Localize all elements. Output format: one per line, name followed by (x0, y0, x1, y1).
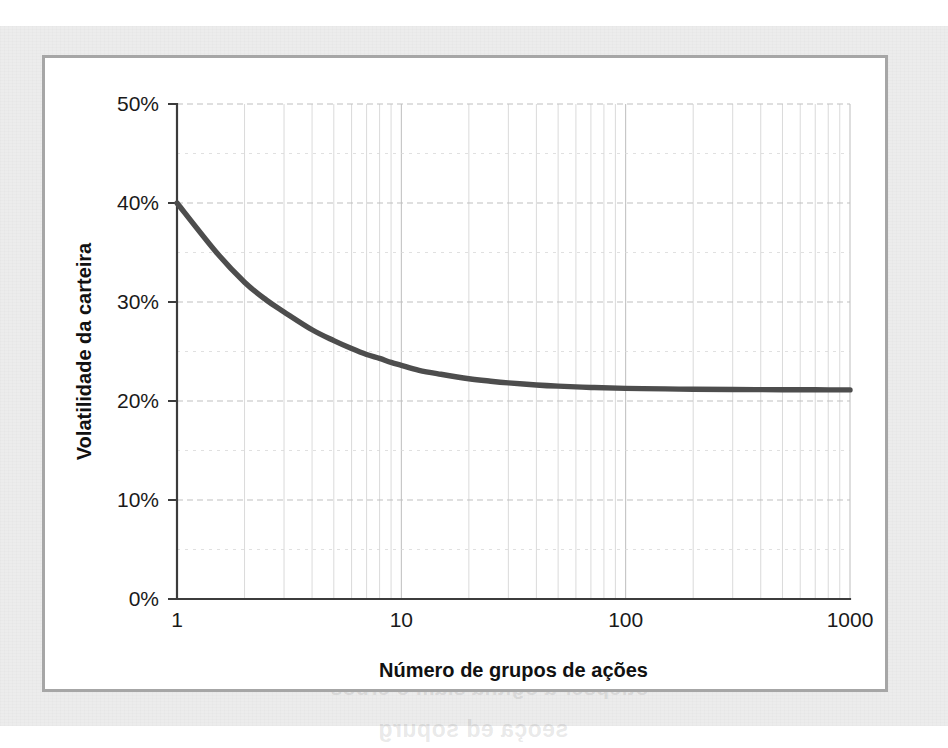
y-tick-label: 10% (117, 488, 159, 511)
y-axis-title: Volatilidade da carteira (73, 242, 95, 460)
chart-svg: 0%10%20%30%40%50% 1101001000 Número de g… (45, 58, 885, 689)
line-chart: 0%10%20%30%40%50% 1101001000 Número de g… (45, 58, 891, 695)
x-axis-tick-labels: 1101001000 (171, 608, 873, 631)
x-tick-label: 10 (390, 608, 413, 631)
y-tick-label: 40% (117, 191, 159, 214)
x-tick-label: 100 (608, 608, 643, 631)
minor-horizontal-gridlines (177, 154, 850, 550)
y-tick-label: 30% (117, 290, 159, 313)
y-tick-label: 20% (117, 389, 159, 412)
volatility-curve (177, 203, 850, 390)
figure-panel: 0%10%20%30%40%50% 1101001000 Número de g… (42, 55, 888, 692)
y-tick-label: 50% (117, 92, 159, 115)
y-axis-tick-marks (168, 104, 177, 599)
x-tick-label: 1 (171, 608, 183, 631)
x-axis-title: Número de grupos de ações (379, 659, 648, 681)
y-tick-label: 0% (129, 587, 159, 610)
minor-vertical-gridlines (245, 104, 840, 599)
major-horizontal-gridlines (177, 104, 850, 500)
y-axis-tick-labels: 0%10%20%30%40%50% (117, 92, 159, 610)
scanned-page: etroc ed sodnuf so erbos açnarepse a ,ai… (0, 0, 948, 748)
x-tick-label: 1000 (827, 608, 874, 631)
curve-path (177, 203, 850, 390)
